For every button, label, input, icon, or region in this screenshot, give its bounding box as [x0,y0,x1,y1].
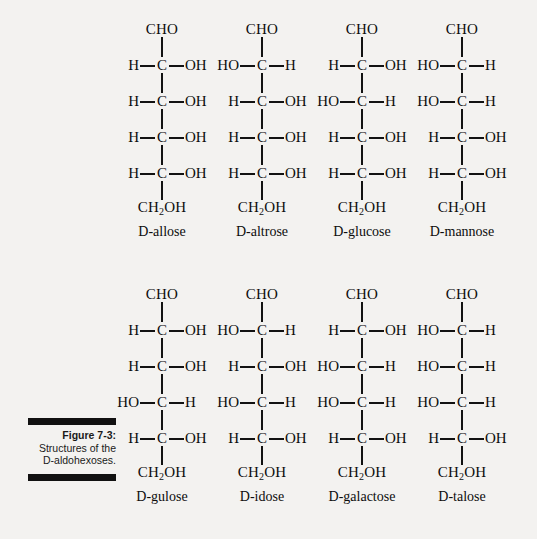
substituent-left: H [428,430,439,446]
molecule-row-bottom: CHOHCOHHCOHHOCHHCOHCH2OHD-guloseCHOHOCHH… [112,287,532,505]
molecule-d-galactose: CHOHCOHHOCHHOCHHCOHCH2OHD-galactose [312,287,412,505]
bond-horizontal-right [269,366,284,368]
terminal-group-bottom: CH2OH [138,465,187,480]
bond-horizontal-left [140,101,155,103]
bond-horizontal-right [369,366,384,368]
bond-horizontal-left [440,137,455,139]
carbon-atom: C [156,129,168,145]
substituent-right: OH [385,57,407,73]
substituent-right: H [285,394,296,410]
bond-horizontal-right [469,65,484,67]
substituent-right: OH [385,165,407,181]
bond-vertical [161,145,163,165]
bond-horizontal-left [240,137,255,139]
carbon-atom: C [256,93,268,109]
bond-vertical [161,374,163,394]
stereocenter-3: HCOH [412,129,512,145]
carbon-atom: C [156,394,168,410]
carbon-atom: C [456,93,468,109]
bond-vertical [461,302,463,322]
stereocenter-1: HCOH [112,57,212,73]
bond-horizontal-right [369,101,384,103]
substituent-left: H [128,322,139,338]
substituent-left: H [128,358,139,374]
substituent-right: H [485,358,496,374]
bond-horizontal-left [440,330,455,332]
bond-horizontal-right [469,173,484,175]
bond-horizontal-left [240,173,255,175]
figure-caption: Figure 7-3: Structures of the D-aldohexo… [28,418,116,481]
substituent-right: OH [485,430,507,446]
terminal-group-bottom: CH2OH [238,465,287,480]
substituent-right: H [185,394,196,410]
carbon-atom: C [156,93,168,109]
substituent-right: OH [485,129,507,145]
stereocenter-2: HOCH [312,358,412,374]
bond-horizontal-right [369,137,384,139]
stereocenter-4: HCOH [212,430,312,446]
substituent-left: HO [417,358,439,374]
carbon-atom: C [456,165,468,181]
molecule-row-top: CHOHCOHHCOHHCOHHCOHCH2OHD-alloseCHOHOCHH… [112,22,532,240]
stereocenter-1: HOCH [412,57,512,73]
bond-horizontal-right [369,65,384,67]
molecule-name-label: D-gulose [136,489,187,505]
bond-horizontal-right [469,101,484,103]
molecule-name-label: D-galactose [329,489,396,505]
bond-vertical [261,145,263,165]
bond-vertical [161,181,163,200]
molecule-name-label: D-altrose [236,224,288,240]
substituent-left: H [328,165,339,181]
substituent-left: HO [417,394,439,410]
bond-vertical [261,302,263,322]
stereocenter-2: HOCH [412,358,512,374]
bond-horizontal-right [369,402,384,404]
stereocenter-4: HCOH [212,165,312,181]
bond-horizontal-left [140,330,155,332]
bond-horizontal-left [440,402,455,404]
bond-horizontal-right [369,173,384,175]
stereocenter-4: HCOH [112,165,212,181]
terminal-group-top: CHO [146,22,178,37]
bond-vertical [461,37,463,57]
carbon-atom: C [256,57,268,73]
bond-vertical [161,446,163,465]
bond-vertical [161,109,163,129]
substituent-left: HO [117,394,139,410]
bond-horizontal-left [240,330,255,332]
stereocenter-3: HCOH [312,129,412,145]
molecule-d-gulose: CHOHCOHHCOHHOCHHCOHCH2OHD-gulose [112,287,212,505]
stereocenter-3: HCOH [212,129,312,145]
substituent-left: HO [317,93,339,109]
bond-horizontal-right [169,330,184,332]
bond-vertical [361,109,363,129]
substituent-right: OH [385,430,407,446]
bond-horizontal-right [269,438,284,440]
carbon-atom: C [256,430,268,446]
substituent-right: OH [185,358,207,374]
substituent-right: H [285,57,296,73]
carbon-atom: C [456,394,468,410]
bond-vertical [261,109,263,129]
bond-vertical [361,410,363,430]
carbon-atom: C [256,394,268,410]
molecule-d-allose: CHOHCOHHCOHHCOHHCOHCH2OHD-allose [112,22,212,240]
bond-horizontal-right [169,173,184,175]
stereocenter-4: HCOH [412,430,512,446]
bond-vertical [361,181,363,200]
stereocenter-4: HCOH [112,430,212,446]
caption-description: Structures of the D-aldohexoses. [39,442,116,467]
substituent-right: OH [185,430,207,446]
bond-vertical [161,37,163,57]
bond-vertical [361,446,363,465]
molecule-name-label: D-glucose [333,224,391,240]
bond-vertical [361,37,363,57]
stereocenter-4: HCOH [312,430,412,446]
stereocenter-4: HCOH [412,165,512,181]
terminal-group-top: CHO [446,287,478,302]
substituent-right: H [285,322,296,338]
carbon-atom: C [156,358,168,374]
bond-vertical [261,73,263,93]
bond-vertical [461,109,463,129]
terminal-group-bottom: CH2OH [338,200,387,215]
